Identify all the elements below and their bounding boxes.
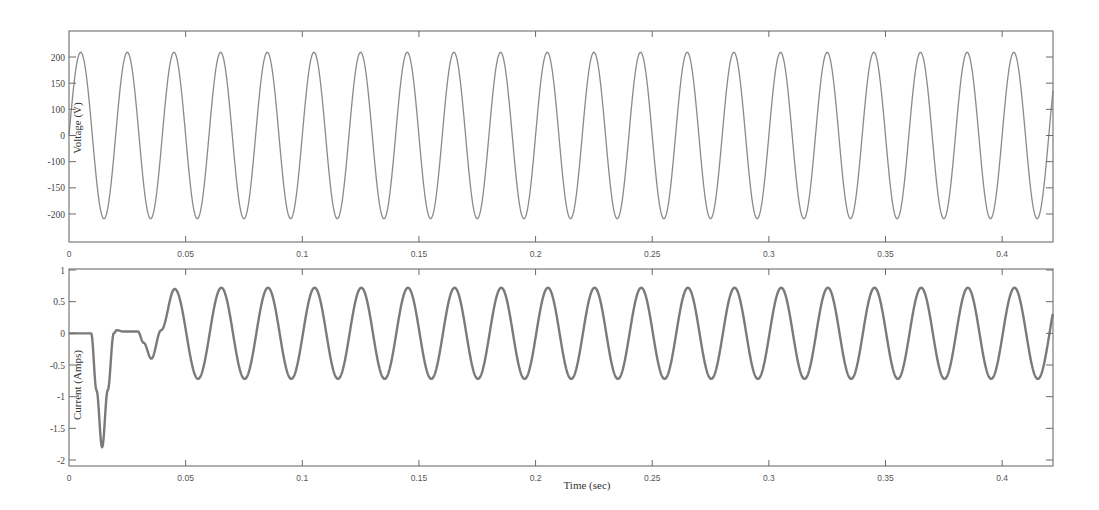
current-ylabel: Current (Amps) [71, 350, 84, 420]
x-tick-label: 0.1 [296, 249, 308, 259]
x-tick-label: 0.15 [411, 249, 428, 259]
current-curve [69, 288, 1053, 448]
voltage-ylabel: Voltage (V) [71, 102, 84, 154]
x-tick-label: 0.05 [177, 473, 194, 483]
x-tick-label: 0.1 [296, 473, 308, 483]
y-tick-label: -100 [48, 157, 66, 167]
y-tick-label: 1 [60, 266, 65, 276]
x-tick-label: 0.25 [644, 249, 661, 259]
y-tick-label: -2 [57, 456, 65, 466]
voltage-curve [69, 52, 1053, 218]
x-tick-label: 0.2 [530, 249, 542, 259]
y-tick-label: 150 [51, 79, 66, 89]
y-tick-label: 100 [51, 105, 66, 115]
x-tick-label: 0.15 [411, 473, 428, 483]
y-tick-label: -1 [57, 392, 65, 402]
x-tick-label: 0.25 [644, 473, 661, 483]
voltage-ticks: 00.050.10.150.20.250.30.350.42001501000-… [48, 31, 1053, 259]
x-tick-label: 0.35 [877, 249, 894, 259]
y-tick-label: -200 [48, 210, 66, 220]
x-tick-label: 0.3 [763, 473, 775, 483]
x-tick-label: 0.2 [530, 473, 542, 483]
figure: 00.050.10.150.20.250.30.350.42001501000-… [0, 0, 1099, 510]
y-tick-label: -150 [48, 183, 66, 193]
x-tick-label: 0 [67, 249, 72, 259]
x-tick-label: 0 [67, 473, 72, 483]
x-tick-label: 0.35 [877, 473, 894, 483]
x-tick-label: 0.05 [177, 249, 194, 259]
y-tick-label: -0.5 [50, 361, 65, 371]
x-tick-label: 0.4 [996, 249, 1008, 259]
y-tick-label: 0.5 [53, 297, 65, 307]
x-tick-label: 0.4 [996, 473, 1008, 483]
voltage-line [69, 52, 1053, 218]
current-line [69, 288, 1053, 448]
voltage-plot: 00.050.10.150.20.250.30.350.42001501000-… [48, 31, 1053, 259]
y-tick-label: -1.5 [50, 424, 65, 434]
y-tick-label: 200 [51, 53, 66, 63]
y-tick-label: 0 [60, 131, 65, 141]
current-plot: 00.050.10.150.20.250.30.350.410.50-0.5-1… [50, 266, 1053, 493]
y-tick-label: 0 [60, 329, 65, 339]
time-xlabel: Time (sec) [564, 479, 611, 492]
x-tick-label: 0.3 [763, 249, 775, 259]
